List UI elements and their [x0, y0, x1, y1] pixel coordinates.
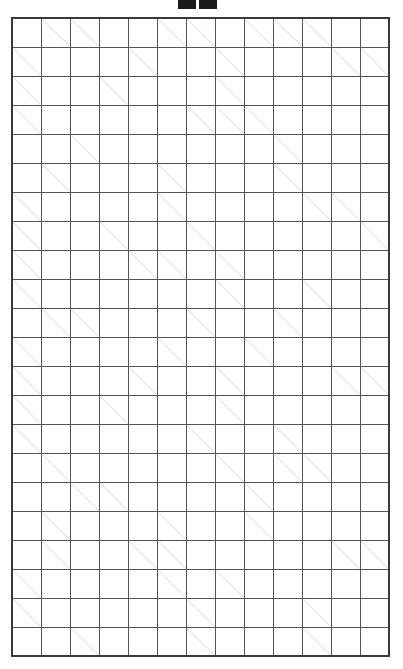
entry-cell[interactable]: [99, 366, 128, 395]
entry-cell[interactable]: [244, 47, 273, 76]
entry-cell[interactable]: [41, 598, 70, 627]
entry-cell[interactable]: [186, 192, 215, 221]
entry-cell[interactable]: [302, 250, 331, 279]
entry-cell[interactable]: [128, 627, 157, 656]
entry-cell[interactable]: [99, 279, 128, 308]
entry-cell[interactable]: [70, 221, 99, 250]
entry-cell[interactable]: [41, 279, 70, 308]
entry-cell[interactable]: [244, 250, 273, 279]
entry-cell[interactable]: [99, 192, 128, 221]
entry-cell[interactable]: [273, 482, 302, 511]
entry-cell[interactable]: [273, 105, 302, 134]
entry-cell[interactable]: [273, 47, 302, 76]
entry-cell[interactable]: [302, 47, 331, 76]
entry-cell[interactable]: [273, 569, 302, 598]
entry-cell[interactable]: [302, 134, 331, 163]
entry-cell[interactable]: [70, 366, 99, 395]
entry-cell[interactable]: [244, 569, 273, 598]
entry-cell[interactable]: [128, 424, 157, 453]
entry-cell[interactable]: [41, 250, 70, 279]
entry-cell[interactable]: [331, 395, 360, 424]
entry-cell[interactable]: [273, 250, 302, 279]
entry-cell[interactable]: [41, 337, 70, 366]
entry-cell[interactable]: [70, 569, 99, 598]
entry-cell[interactable]: [157, 395, 186, 424]
entry-cell[interactable]: [273, 598, 302, 627]
entry-cell[interactable]: [186, 366, 215, 395]
entry-cell[interactable]: [273, 192, 302, 221]
entry-cell[interactable]: [302, 308, 331, 337]
entry-cell[interactable]: [128, 134, 157, 163]
entry-cell[interactable]: [302, 540, 331, 569]
entry-cell[interactable]: [331, 76, 360, 105]
entry-cell[interactable]: [360, 627, 389, 656]
entry-cell[interactable]: [360, 250, 389, 279]
entry-cell[interactable]: [41, 192, 70, 221]
entry-cell[interactable]: [70, 47, 99, 76]
entry-cell[interactable]: [331, 221, 360, 250]
entry-cell[interactable]: [215, 134, 244, 163]
entry-cell[interactable]: [273, 221, 302, 250]
entry-cell[interactable]: [331, 308, 360, 337]
entry-cell[interactable]: [99, 105, 128, 134]
entry-cell[interactable]: [99, 627, 128, 656]
entry-cell[interactable]: [331, 134, 360, 163]
entry-cell[interactable]: [128, 192, 157, 221]
entry-cell[interactable]: [186, 511, 215, 540]
entry-cell[interactable]: [128, 569, 157, 598]
entry-cell[interactable]: [215, 163, 244, 192]
entry-cell[interactable]: [215, 308, 244, 337]
entry-cell[interactable]: [331, 511, 360, 540]
entry-cell[interactable]: [331, 337, 360, 366]
entry-cell[interactable]: [302, 424, 331, 453]
entry-cell[interactable]: [99, 511, 128, 540]
entry-cell[interactable]: [360, 105, 389, 134]
entry-cell[interactable]: [331, 163, 360, 192]
entry-cell[interactable]: [302, 366, 331, 395]
entry-cell[interactable]: [157, 221, 186, 250]
entry-cell[interactable]: [41, 47, 70, 76]
entry-cell[interactable]: [70, 105, 99, 134]
entry-cell[interactable]: [302, 395, 331, 424]
entry-cell[interactable]: [99, 424, 128, 453]
entry-cell[interactable]: [331, 105, 360, 134]
entry-cell[interactable]: [157, 482, 186, 511]
entry-cell[interactable]: [157, 598, 186, 627]
entry-cell[interactable]: [41, 76, 70, 105]
entry-cell[interactable]: [70, 279, 99, 308]
entry-cell[interactable]: [70, 540, 99, 569]
entry-cell[interactable]: [99, 569, 128, 598]
entry-cell[interactable]: [244, 192, 273, 221]
entry-cell[interactable]: [41, 366, 70, 395]
entry-cell[interactable]: [360, 76, 389, 105]
entry-cell[interactable]: [70, 250, 99, 279]
entry-cell[interactable]: [360, 453, 389, 482]
entry-cell[interactable]: [215, 192, 244, 221]
entry-cell[interactable]: [70, 424, 99, 453]
entry-cell[interactable]: [302, 569, 331, 598]
entry-cell[interactable]: [99, 308, 128, 337]
entry-cell[interactable]: [157, 105, 186, 134]
entry-cell[interactable]: [360, 569, 389, 598]
entry-cell[interactable]: [244, 598, 273, 627]
entry-cell[interactable]: [41, 221, 70, 250]
entry-cell[interactable]: [70, 337, 99, 366]
entry-cell[interactable]: [186, 482, 215, 511]
entry-cell[interactable]: [360, 337, 389, 366]
entry-cell[interactable]: [331, 627, 360, 656]
entry-cell[interactable]: [215, 627, 244, 656]
entry-cell[interactable]: [128, 76, 157, 105]
entry-cell[interactable]: [215, 540, 244, 569]
entry-cell[interactable]: [70, 192, 99, 221]
entry-cell[interactable]: [331, 279, 360, 308]
entry-cell[interactable]: [244, 279, 273, 308]
entry-cell[interactable]: [157, 627, 186, 656]
entry-cell[interactable]: [157, 424, 186, 453]
entry-cell[interactable]: [70, 453, 99, 482]
entry-cell[interactable]: [128, 395, 157, 424]
entry-cell[interactable]: [70, 163, 99, 192]
entry-cell[interactable]: [41, 105, 70, 134]
entry-cell[interactable]: [273, 540, 302, 569]
entry-cell[interactable]: [244, 395, 273, 424]
entry-cell[interactable]: [157, 76, 186, 105]
